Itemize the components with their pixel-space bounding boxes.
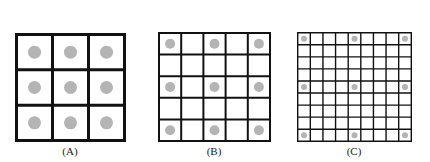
dot-marker <box>352 36 358 42</box>
dot-marker <box>210 125 220 135</box>
dot-marker <box>210 39 220 49</box>
caption-a: (A) <box>40 145 100 157</box>
dot-marker <box>402 84 408 90</box>
dot-marker <box>64 116 77 129</box>
dot-marker <box>210 82 220 92</box>
caption-b: (B) <box>184 145 244 157</box>
dot-marker <box>301 132 307 138</box>
dot-marker <box>301 36 307 42</box>
grid-b-svg <box>158 32 271 142</box>
dot-marker <box>28 46 41 59</box>
dot-marker <box>254 82 264 92</box>
dot-marker <box>100 81 113 94</box>
dot-marker <box>165 125 175 135</box>
dot-marker <box>402 132 408 138</box>
dot-marker <box>402 36 408 42</box>
dot-marker <box>352 84 358 90</box>
dot-marker <box>28 116 41 129</box>
dot-marker <box>28 81 41 94</box>
dot-marker <box>100 46 113 59</box>
grid-a-svg <box>15 33 126 142</box>
dot-marker <box>100 116 113 129</box>
grid-a <box>15 33 126 142</box>
grid-c <box>297 32 412 142</box>
dot-marker <box>64 81 77 94</box>
dot-marker <box>254 125 264 135</box>
dot-marker <box>352 132 358 138</box>
grid-b <box>158 32 271 142</box>
dot-marker <box>301 84 307 90</box>
grid-c-svg <box>297 32 412 142</box>
dot-marker <box>165 82 175 92</box>
dot-marker <box>254 39 264 49</box>
dot-marker <box>64 46 77 59</box>
caption-c: (C) <box>324 145 384 157</box>
dot-marker <box>165 39 175 49</box>
